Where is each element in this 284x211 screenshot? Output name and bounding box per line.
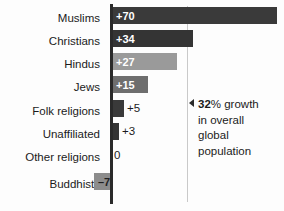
zero-axis-line [110, 4, 113, 204]
annotation-bold-value: 32 [198, 98, 211, 110]
plot-area: +70 +34 +27 +15 +5 +3 0 –7 32% growth in… [0, 0, 284, 211]
bar-buddhists: –7 [94, 173, 111, 190]
annotation-line-1: 32% growth [189, 97, 284, 113]
annotation-line-2: in overall [189, 113, 284, 129]
bar-value-hindus: +27 [116, 56, 135, 67]
bar-muslims: +70 [112, 7, 277, 24]
bar-value-christians: +34 [116, 33, 135, 44]
bar-jews: +15 [112, 76, 148, 93]
bar-value-buddhists: –7 [98, 176, 110, 187]
annotation-line-4: population [189, 144, 284, 160]
arrow-left-icon [189, 99, 194, 107]
bar-value-jews: +15 [116, 79, 135, 90]
bar-value-unaffiliated: +3 [122, 126, 135, 137]
annotation-line-1-rest: % growth [211, 98, 259, 110]
bar-unaffiliated [112, 123, 119, 140]
bar-christians: +34 [112, 30, 193, 47]
bar-chart: Muslims Christians Hindus Jews Folk reli… [0, 0, 284, 211]
bar-hindus: +27 [112, 53, 177, 70]
bar-value-muslims: +70 [116, 10, 135, 21]
reference-annotation: 32% growth in overall global population [189, 97, 284, 159]
bar-value-folk-religions: +5 [127, 103, 140, 114]
annotation-line-3: global [189, 128, 284, 144]
bar-folk-religions [112, 100, 124, 117]
bar-value-other-religions: 0 [114, 150, 120, 161]
